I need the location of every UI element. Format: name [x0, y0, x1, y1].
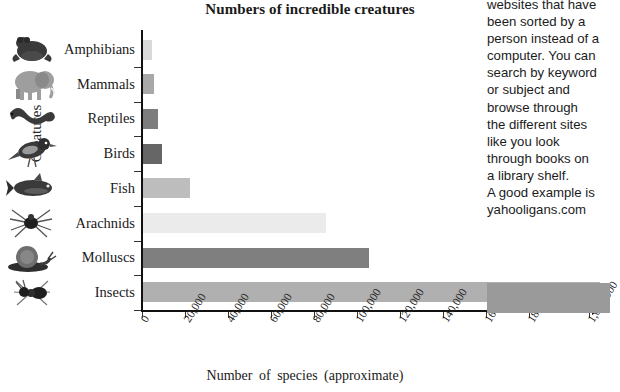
- category-label: Birds: [15, 136, 141, 171]
- bar: [143, 248, 369, 268]
- side-text-line: browse through: [487, 99, 610, 116]
- side-panel-bottom-strip: [487, 283, 610, 313]
- side-text-line: a library shelf.: [487, 167, 610, 184]
- bar: [143, 74, 154, 94]
- category-label: Reptiles: [15, 101, 141, 136]
- side-text-line: through books on: [487, 150, 610, 167]
- x-axis-label: Number of species (approximate): [150, 368, 460, 384]
- category-label: Insects: [15, 275, 141, 310]
- category-label: Arachnids: [15, 206, 141, 241]
- category-label: Molluscs: [15, 240, 141, 275]
- side-text-line: or subject and: [487, 81, 610, 98]
- side-text-line: computer. You can: [487, 47, 610, 64]
- bar: [143, 178, 190, 198]
- x-tick-label: 0: [138, 313, 151, 324]
- side-text-line: like you look: [487, 133, 610, 150]
- bar-row: Molluscs: [0, 240, 610, 275]
- bar: [143, 144, 162, 164]
- category-label: Mammals: [15, 67, 141, 102]
- y-tick: [134, 310, 141, 311]
- side-text-line: A good example is: [487, 184, 610, 201]
- side-text-line: the different sites: [487, 116, 610, 133]
- side-text-line: yahooligans.com: [487, 201, 610, 218]
- bar: [143, 40, 152, 60]
- side-text-line: been sorted by a: [487, 13, 610, 30]
- side-text-line: websites that have: [487, 0, 610, 13]
- bar: [143, 109, 158, 129]
- side-text-line: search by keyword: [487, 64, 610, 81]
- category-label: Fish: [15, 171, 141, 206]
- category-label: Amphibians: [15, 32, 141, 67]
- side-text-line: person instead of a: [487, 30, 610, 47]
- side-text-panel: websites that havebeen sorted by aperson…: [487, 0, 610, 218]
- bar: [143, 213, 326, 233]
